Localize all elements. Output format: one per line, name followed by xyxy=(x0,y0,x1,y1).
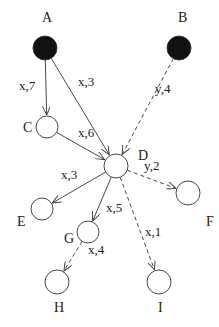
node-label-g: G xyxy=(64,231,74,246)
node-d xyxy=(104,154,128,178)
edge-a-d xyxy=(51,58,109,155)
node-label-f: F xyxy=(206,214,214,229)
node-label-d: D xyxy=(138,148,148,163)
node-f xyxy=(176,181,200,205)
edge-label-g-h: x,4 xyxy=(88,242,105,257)
node-label-e: E xyxy=(17,214,26,229)
node-label-i: I xyxy=(158,300,163,315)
node-label-c: C xyxy=(23,120,32,135)
node-label-h: H xyxy=(54,300,64,315)
node-c xyxy=(36,116,58,138)
node-h xyxy=(45,270,69,294)
node-e xyxy=(31,198,53,220)
node-a xyxy=(33,36,57,60)
node-label-a: A xyxy=(42,10,53,25)
edge-label-d-e: x,3 xyxy=(61,167,77,182)
edge-a-c xyxy=(45,60,46,115)
edge-label-b-d: y,4 xyxy=(155,81,171,96)
node-b xyxy=(167,36,191,60)
edge-label-a-c: x,7 xyxy=(19,78,36,93)
edge-label-d-i: x,1 xyxy=(145,224,161,239)
node-i xyxy=(147,270,171,294)
directed-graph: x,7x,3y,4x,6x,3y,2x,5x,1x,4 ABCDEFGHI xyxy=(0,0,219,327)
node-label-b: B xyxy=(178,10,187,25)
edge-label-d-g: x,5 xyxy=(106,200,122,215)
edge-label-c-d: x,6 xyxy=(78,125,95,140)
node-g xyxy=(77,221,99,243)
edge-label-a-d: x,3 xyxy=(78,74,94,89)
edge-b-d xyxy=(122,59,173,155)
